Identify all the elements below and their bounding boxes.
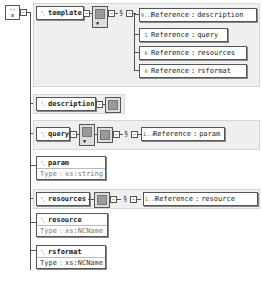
element-icon: ᵀ꜀ <box>38 217 48 223</box>
element-icon: ᵀ꜀ <box>38 132 48 137</box>
reference-icon: 0 <box>141 69 151 74</box>
reference-param[interactable]: 1..∞ Reference : param <box>141 127 225 141</box>
rsformat-element[interactable]: ᵀ꜀rsformat Type:xs:NCName <box>36 245 106 269</box>
root-element-icon[interactable]: ‹›≡ <box>5 5 20 20</box>
element-icon: ᵀ꜀ <box>38 102 48 107</box>
reference-icon: 1 <box>141 33 151 38</box>
reference-resource[interactable]: 1..∞ Reference : resource <box>143 192 258 206</box>
complex-type-icon: ▼ <box>79 124 95 146</box>
element-icon: ᵀ꜀ <box>38 160 48 166</box>
element-icon: ᵀ꜀ <box>38 249 48 255</box>
sequence-icon: § <box>121 194 129 204</box>
param-element[interactable]: ᵀ꜀param Type:xs:string <box>36 156 106 180</box>
reference-rsformat[interactable]: 0 Reference : rsformat <box>139 64 247 78</box>
sequence-icon: § <box>122 129 130 139</box>
reference-icon: 0..1 <box>141 13 151 18</box>
element-icon: ᵀ꜀ <box>38 197 48 202</box>
reference-icon: 1..∞ <box>143 132 153 137</box>
resources-element[interactable]: ᵀ꜀ resources <box>36 192 90 206</box>
reference-resources[interactable]: 0 Reference : resources <box>139 46 247 60</box>
description-element[interactable]: ᵀ꜀ description <box>36 97 96 111</box>
complex-type-icon <box>97 127 113 143</box>
reference-icon: 0 <box>141 51 151 56</box>
sequence-icon: § <box>117 8 125 18</box>
complex-type-icon <box>94 192 110 208</box>
reference-description[interactable]: 0..1 Reference : description <box>139 8 257 22</box>
template-element[interactable]: ᵀ꜀ template <box>36 6 84 20</box>
reference-icon: 1..∞ <box>145 197 155 202</box>
complex-type-icon <box>105 97 121 113</box>
complex-type-icon: ▼ <box>92 6 108 28</box>
query-element[interactable]: ᵀ꜀ query <box>36 127 70 141</box>
resource-element[interactable]: ᵀ꜀resource Type:xs:NCName <box>36 213 108 237</box>
reference-query[interactable]: 1 Reference : query <box>139 28 228 42</box>
element-icon: ᵀ꜀ <box>38 11 48 16</box>
